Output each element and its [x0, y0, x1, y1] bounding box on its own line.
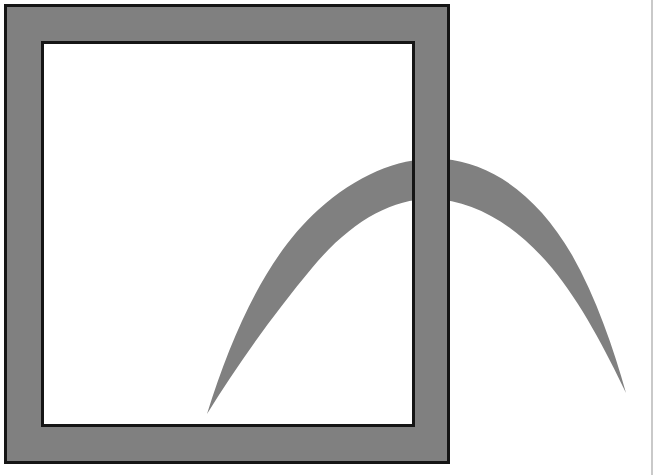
logo-artboard	[0, 0, 664, 475]
logo-canvas	[0, 0, 664, 475]
vertical-rule	[651, 0, 653, 475]
